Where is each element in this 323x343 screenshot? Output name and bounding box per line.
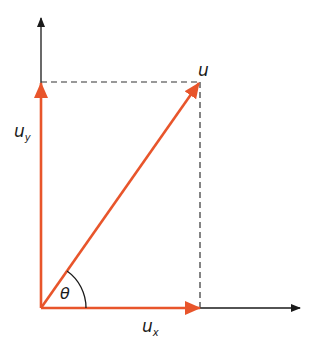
theta-label: θ: [60, 284, 70, 303]
u-vector: [41, 83, 199, 308]
uy-label-subscript: y: [24, 132, 32, 143]
uy-label: uy: [14, 121, 32, 143]
u-label: u: [198, 60, 209, 80]
theta-arc: [67, 271, 86, 308]
uy-label-main: u: [14, 121, 25, 141]
vector-component-diagram: u uy ux θ: [0, 0, 323, 343]
ux-label-main: u: [142, 316, 153, 336]
ux-label: ux: [142, 316, 159, 338]
ux-label-subscript: x: [152, 327, 159, 338]
